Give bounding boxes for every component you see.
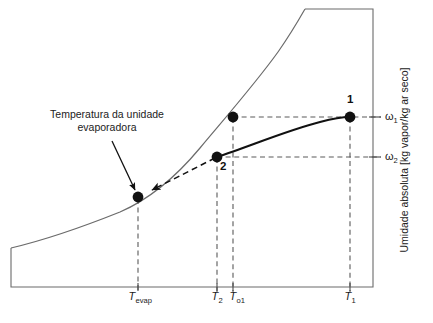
x-tick-symbol-t-o1: T [229, 290, 236, 302]
point-label-2: 2 [220, 159, 226, 173]
marker-point-saturation-o1 [228, 112, 239, 123]
process-curve-2-to-1 [217, 117, 350, 157]
x-tick-symbol-t-2: T [212, 290, 219, 302]
annotation-arrow [112, 141, 135, 190]
x-tick-label-t-1: T1 [345, 290, 356, 304]
y-tick-symbol-omega-2: ω [385, 150, 394, 162]
x-tick-sub-t-2: 2 [219, 296, 223, 305]
x-tick-label-t-o1: To1 [229, 290, 244, 304]
plot-frame [11, 9, 373, 287]
x-tick-label-t-2: T2 [212, 290, 223, 304]
x-tick-label-t-evap: Tevap [128, 290, 151, 304]
y-tick-label-omega-2: ω2 [385, 150, 398, 164]
psychrometric-chart-figure: Temperatura da unidade evaporadora Tevap… [0, 0, 433, 323]
mixing-line-2-to-evaporator [152, 158, 215, 190]
x-tick-sub-t-o1: o1 [236, 296, 244, 305]
x-tick-sub-t-1: 1 [352, 296, 356, 305]
point-label-1: 1 [347, 92, 353, 106]
annotation-label: Temperatura da unidade evaporadora [33, 108, 181, 134]
y-tick-symbol-omega-1: ω [385, 110, 394, 122]
x-tick-symbol-t-evap: T [128, 290, 135, 302]
y-tick-label-omega-1: ω1 [385, 110, 398, 124]
y-axis-ticks [369, 117, 381, 157]
x-tick-sub-t-evap: evap [135, 296, 151, 305]
y-axis-title-text: Umidade absoluta [kg vapor/kg ar seco] [398, 60, 411, 260]
marker-point-1 [345, 112, 356, 123]
x-tick-symbol-t-1: T [345, 290, 352, 302]
marker-point-evaporator [133, 192, 144, 203]
guide-lines [138, 117, 381, 292]
y-axis-title: Umidade absoluta [kg vapor/kg ar seco] [398, 60, 411, 260]
chart-canvas [0, 0, 433, 323]
